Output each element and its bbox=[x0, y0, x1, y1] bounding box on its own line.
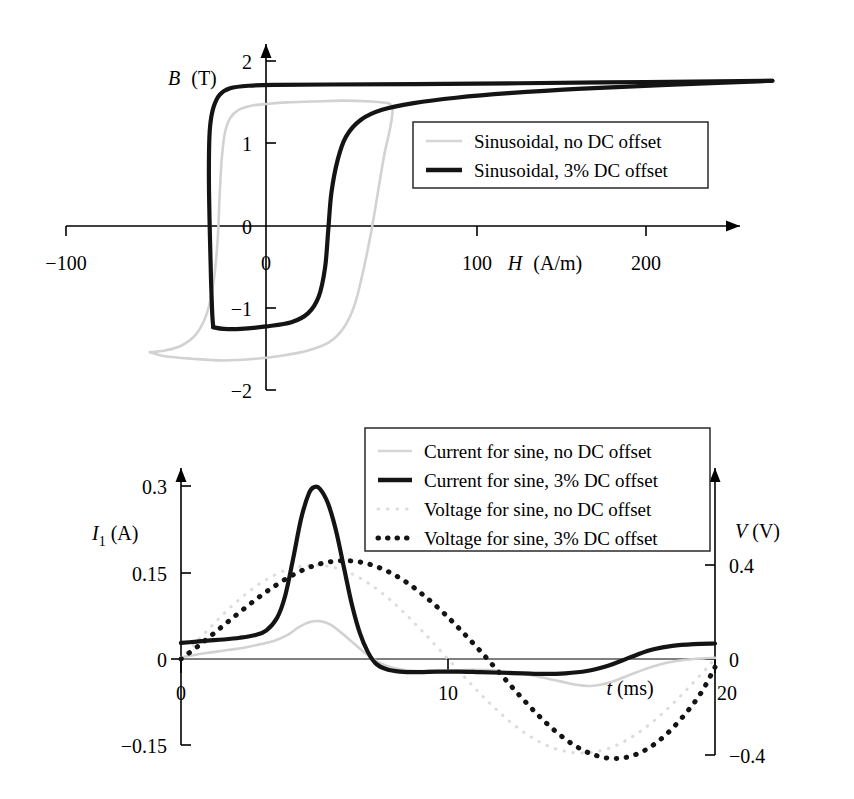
waveform-right-tick-label-0: 0 bbox=[729, 649, 739, 671]
waveform-left-tick-label-0p3: 0.3 bbox=[142, 476, 167, 498]
hysteresis-curve-3pct-offset-lower bbox=[213, 81, 772, 329]
hysteresis-chart-panel: 2 1 0 −1 −2 −100 0 100 200 B (T) H (A/m) bbox=[0, 0, 854, 420]
hysteresis-ytick-label-minus1: −1 bbox=[231, 298, 252, 320]
hysteresis-x-axis-title: H (A/m) bbox=[507, 252, 582, 275]
waveform-t-axis-unit: (ms) bbox=[617, 677, 654, 700]
hysteresis-y-axis bbox=[261, 44, 277, 390]
waveform-t-tick-label-20: 20 bbox=[717, 682, 737, 704]
waveform-left-tick-label-0p15: 0.15 bbox=[132, 563, 167, 585]
hysteresis-x-axis bbox=[66, 221, 740, 237]
waveform-right-tick-label-0p4: 0.4 bbox=[729, 555, 754, 577]
waveform-left-axis-title: I1(A) bbox=[91, 522, 138, 549]
hysteresis-legend-label-no-offset: Sinusoidal, no DC offset bbox=[474, 131, 662, 152]
waveform-legend-label-current-3pct-offset: Current for sine, 3% DC offset bbox=[424, 470, 659, 491]
hysteresis-y-axis-title: B (T) bbox=[168, 67, 217, 90]
hysteresis-ytick-label-minus2: −2 bbox=[231, 380, 252, 402]
hysteresis-ytick-label-0: 0 bbox=[242, 216, 252, 238]
waveform-left-tick-label-minus0p15: −0.15 bbox=[121, 735, 167, 757]
figure-root: 2 1 0 −1 −2 −100 0 100 200 B (T) H (A/m) bbox=[0, 0, 854, 799]
x-axis-arrowhead bbox=[726, 221, 740, 232]
waveform-right-axis-symbol: V bbox=[735, 520, 750, 542]
waveform-right-tick-label-minus0p4: −0.4 bbox=[729, 745, 765, 767]
hysteresis-plot: 2 1 0 −1 −2 −100 0 100 200 B (T) H (A/m) bbox=[0, 0, 854, 420]
waveform-chart-panel: 0.3 0.15 0 −0.15 0.4 0 −0.4 0 10 20 I1(A… bbox=[0, 420, 854, 799]
waveform-plot: 0.3 0.15 0 −0.15 0.4 0 −0.4 0 10 20 I1(A… bbox=[0, 420, 854, 799]
waveform-legend-label-voltage-no-offset: Voltage for sine, no DC offset bbox=[424, 499, 652, 520]
left-axis-arrowhead bbox=[176, 468, 187, 482]
hysteresis-ytick-label-1: 1 bbox=[242, 133, 252, 155]
waveform-legend-label-voltage-3pct-offset: Voltage for sine, 3% DC offset bbox=[424, 528, 658, 549]
waveform-legend: Current for sine, no DC offset Current f… bbox=[365, 428, 710, 551]
y-axis-arrowhead bbox=[261, 44, 272, 58]
waveform-left-axis-unit: (A) bbox=[111, 522, 139, 545]
hysteresis-xtick-label-minus100: −100 bbox=[45, 252, 86, 274]
waveform-t-axis-symbol: t bbox=[606, 677, 612, 699]
waveform-t-tick-label-10: 10 bbox=[438, 682, 458, 704]
hysteresis-curve-3pct-offset-upper bbox=[209, 81, 773, 328]
hysteresis-y-axis-unit: (T) bbox=[191, 67, 217, 90]
hysteresis-ytick-label-2: 2 bbox=[242, 51, 252, 73]
hysteresis-legend: Sinusoidal, no DC offset Sinusoidal, 3% … bbox=[413, 122, 708, 188]
hysteresis-y-axis-symbol: B bbox=[168, 67, 180, 89]
waveform-legend-label-current-no-offset: Current for sine, no DC offset bbox=[424, 441, 652, 462]
hysteresis-xtick-label-100: 100 bbox=[462, 252, 492, 274]
hysteresis-x-axis-unit: (A/m) bbox=[533, 252, 582, 275]
hysteresis-curve-no-offset-lower bbox=[150, 103, 393, 360]
hysteresis-xtick-label-200: 200 bbox=[631, 252, 661, 274]
waveform-right-axis-unit: (V) bbox=[752, 520, 780, 543]
waveform-left-tick-label-0: 0 bbox=[157, 649, 167, 671]
right-axis-arrowhead bbox=[710, 468, 721, 482]
hysteresis-xtick-label-0: 0 bbox=[261, 252, 271, 274]
hysteresis-legend-label-3pct-offset: Sinusoidal, 3% DC offset bbox=[474, 160, 669, 181]
waveform-left-axis-subscript: 1 bbox=[99, 534, 106, 549]
hysteresis-x-axis-symbol: H bbox=[507, 252, 524, 274]
waveform-t-tick-label-0: 0 bbox=[176, 682, 186, 704]
waveform-right-axis-title: V(V) bbox=[735, 520, 780, 543]
